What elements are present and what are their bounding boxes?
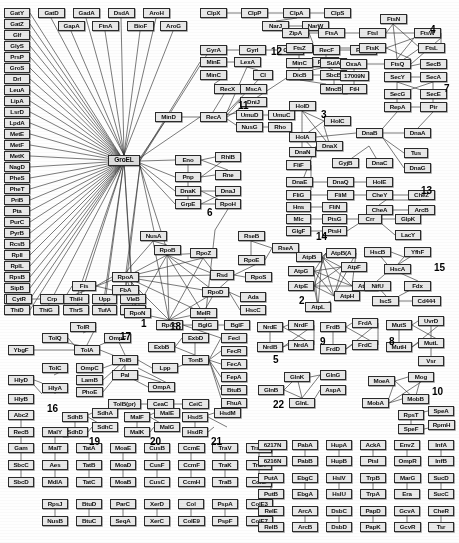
protein-node[interactable]: FtsW [414, 28, 441, 38]
protein-node[interactable]: NrdB [257, 342, 283, 352]
protein-node[interactable]: CeiC [182, 399, 209, 409]
protein-node[interactable]: FliF [286, 160, 311, 170]
protein-node[interactable]: SecB [420, 59, 447, 69]
protein-node[interactable]: RpsT [398, 410, 424, 420]
protein-node[interactable]: 6216N [258, 456, 287, 466]
protein-node[interactable]: RpoB [154, 245, 181, 255]
protein-node[interactable]: DnaJ [215, 186, 241, 196]
protein-node[interactable]: MalK [124, 427, 150, 437]
protein-node[interactable]: GlgF [286, 226, 311, 236]
protein-node[interactable]: Tus [404, 148, 428, 158]
protein-node[interactable]: FliM [327, 190, 354, 200]
protein-node[interactable]: DsbD [326, 522, 352, 532]
protein-node[interactable]: SeqA [110, 516, 136, 526]
protein-node[interactable]: LacY [395, 230, 421, 240]
protein-node[interactable]: SdhB [62, 412, 88, 422]
protein-node[interactable]: HscB [364, 247, 391, 257]
protein-node[interactable]: BglF [224, 320, 250, 330]
protein-node[interactable]: GatD [38, 8, 65, 18]
protein-node[interactable]: PutA [258, 473, 284, 483]
protein-node[interactable]: GatY [4, 8, 30, 18]
protein-node[interactable]: CheR [428, 506, 454, 516]
protein-node[interactable]: AtpB(A [326, 248, 356, 258]
protein-node[interactable]: FecI [221, 333, 247, 343]
protein-node[interactable]: RelE [258, 506, 284, 516]
protein-node[interactable]: HupB [326, 456, 352, 466]
protein-node[interactable]: XerD [144, 499, 170, 509]
protein-node[interactable]: MalG [154, 422, 180, 432]
protein-node[interactable]: GatZ [4, 19, 30, 29]
protein-node[interactable]: HupA [326, 440, 352, 450]
protein-node[interactable]: LsrD [4, 107, 30, 117]
protein-node[interactable]: MetE [4, 129, 30, 139]
protein-node[interactable]: RplI [4, 250, 30, 260]
protein-node[interactable]: RpsJ [42, 499, 68, 509]
protein-node[interactable]: ZipA [282, 28, 309, 38]
protein-node[interactable]: HolD [289, 101, 316, 111]
protein-node[interactable]: YfhF [404, 247, 431, 257]
protein-node[interactable]: HlyA [42, 383, 68, 393]
protein-node[interactable]: Pir [420, 102, 447, 112]
protein-node[interactable]: Lpp [152, 363, 178, 373]
protein-node[interactable]: SdhA [92, 408, 118, 418]
protein-node[interactable]: MinC [286, 58, 313, 68]
protein-node[interactable]: DnaG [404, 163, 431, 173]
protein-node[interactable]: FrdB [320, 322, 346, 332]
protein-node[interactable]: HslU [326, 489, 352, 499]
protein-node[interactable]: NrdF [288, 320, 314, 330]
protein-node[interactable]: LpdA [4, 118, 30, 128]
protein-node[interactable]: AroG [160, 21, 187, 31]
protein-node[interactable]: LamB [76, 375, 103, 385]
protein-node[interactable]: MalT [42, 443, 68, 453]
protein-node[interactable]: GlnK [284, 372, 310, 382]
protein-node[interactable]: GapA [58, 21, 85, 31]
protein-node[interactable]: TraK [212, 460, 238, 470]
protein-node[interactable]: MalE [154, 408, 180, 418]
protein-node[interactable]: DnaB [356, 128, 383, 138]
protein-node[interactable]: CheY [366, 190, 393, 200]
protein-node[interactable]: RelB [258, 522, 284, 532]
protein-node[interactable]: TolR [70, 322, 96, 332]
protein-node[interactable]: FecR [221, 346, 247, 356]
protein-node[interactable]: ThrS [63, 305, 89, 315]
protein-node[interactable]: GlnG [320, 370, 346, 380]
protein-node[interactable]: Hns [286, 202, 311, 212]
protein-node[interactable]: GyrA [200, 45, 227, 55]
protein-node[interactable]: DnaQ [327, 177, 354, 187]
protein-node[interactable]: FtnA [92, 21, 119, 31]
protein-node[interactable]: Aes [42, 460, 68, 470]
protein-node[interactable]: DnaE [286, 177, 313, 187]
protein-node[interactable]: RecB [8, 427, 34, 437]
protein-node[interactable]: DicB [286, 70, 313, 80]
protein-node[interactable]: AtpL [305, 302, 331, 312]
protein-node[interactable]: LeuA [4, 85, 30, 95]
protein-node[interactable]: OxaA [340, 59, 367, 69]
protein-node[interactable]: RpoD [202, 287, 229, 297]
protein-node[interactable]: ExbB [148, 342, 175, 352]
protein-node[interactable]: CusC [144, 477, 170, 487]
protein-node[interactable]: ColE9 [178, 516, 205, 526]
protein-node[interactable]: FtsL [418, 43, 445, 53]
protein-node[interactable]: TrpB [360, 473, 386, 483]
protein-node[interactable]: ExbD [182, 333, 209, 343]
protein-node[interactable]: RseB [238, 231, 265, 241]
protein-node[interactable]: PtsI [360, 456, 386, 466]
protein-node[interactable]: UmuD [236, 110, 263, 120]
protein-node[interactable]: CcmF [178, 460, 205, 470]
protein-node[interactable]: Mlc [286, 214, 311, 224]
protein-node[interactable]: GyjB [332, 158, 359, 168]
protein-node[interactable]: CusF [144, 460, 170, 470]
protein-node[interactable]: FliN [322, 202, 347, 212]
protein-node[interactable]: HlyB [8, 394, 34, 404]
protein-node[interactable]: AroH [143, 8, 170, 18]
protein-node[interactable]: HsdS [182, 412, 208, 422]
protein-node[interactable]: SecY [384, 72, 411, 82]
protein-node[interactable]: RpoA [112, 272, 139, 282]
protein-node[interactable]: HolC [324, 116, 351, 126]
protein-node[interactable]: EnvZ [394, 440, 420, 450]
protein-node[interactable]: FtsZ [286, 43, 313, 53]
protein-node[interactable]: MetK [4, 151, 30, 161]
protein-node[interactable]: PapK [360, 522, 386, 532]
protein-node[interactable]: FliG [286, 190, 311, 200]
protein-node[interactable]: HsdR [182, 427, 208, 437]
